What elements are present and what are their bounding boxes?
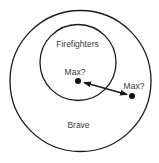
point-label-inner: Max? (65, 67, 86, 77)
outer-set-label: Brave (67, 120, 89, 130)
point-dot-inner (75, 78, 81, 84)
inner-set-label: Firefighters (56, 39, 99, 49)
point-dot-outer (129, 93, 135, 99)
double-arrow-connector (84, 83, 127, 95)
point-label-outer: Max? (124, 81, 145, 91)
diagram-canvas: Firefighters Brave Max? Max? (0, 0, 159, 163)
inner-set-circle-firefighters (40, 25, 116, 101)
venn-diagram: Firefighters Brave Max? Max? (0, 0, 159, 163)
